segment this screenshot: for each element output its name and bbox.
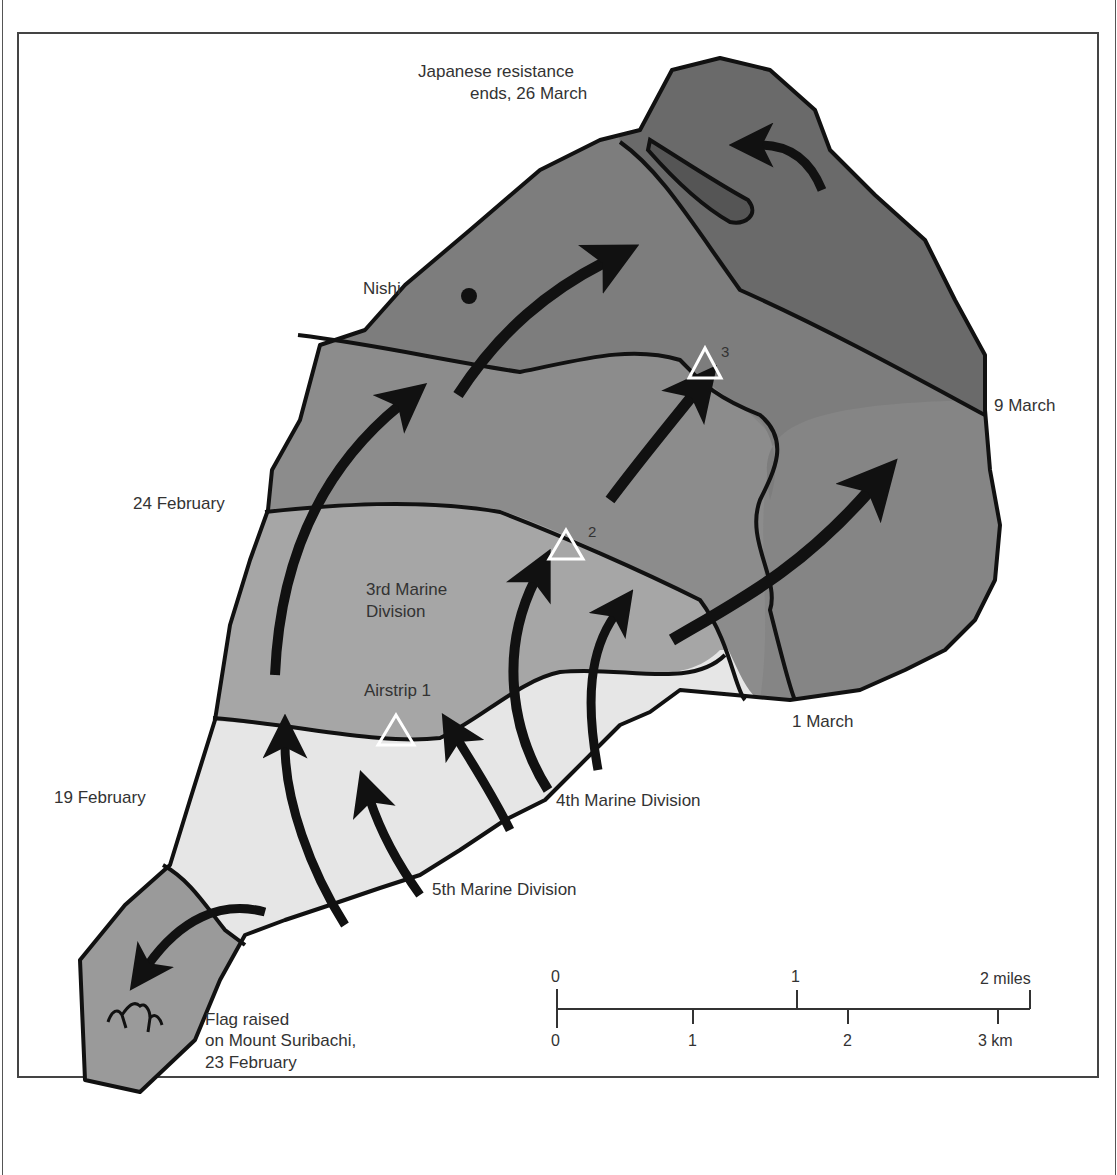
label-flag-3: 23 February	[205, 1053, 297, 1073]
label-24-february: 24 February	[133, 494, 225, 514]
scale-km-0: 0	[551, 1031, 560, 1051]
label-flag-1: Flag raised	[205, 1010, 289, 1030]
label-flag-2: on Mount Suribachi,	[205, 1031, 356, 1051]
label-19-february: 19 February	[54, 788, 146, 808]
label-resistance-end-1: Japanese resistance	[418, 62, 574, 82]
scale-miles-0: 0	[551, 967, 560, 987]
label-1-march: 1 March	[792, 712, 853, 732]
label-nishi: Nishi	[363, 279, 401, 299]
scale-km-3: 3 km	[978, 1031, 1013, 1051]
label-3rd-division-1: 3rd Marine	[366, 580, 447, 600]
scale-km-1: 1	[688, 1031, 697, 1051]
scale-miles-1: 1	[791, 967, 800, 987]
iwo-jima-map	[0, 0, 1117, 1175]
label-airstrip-2: 2	[588, 522, 596, 542]
label-airstrip-1: Airstrip 1	[364, 681, 431, 701]
label-3rd-division-2: Division	[366, 602, 426, 622]
label-airstrip-3: 3	[721, 342, 729, 362]
nishi-dot-icon	[461, 288, 477, 304]
scale-km-2: 2	[843, 1031, 852, 1051]
scale-bar	[557, 989, 1030, 1028]
phase-zones	[0, 0, 1117, 1175]
label-5th-division: 5th Marine Division	[432, 880, 577, 900]
label-9-march: 9 March	[994, 396, 1055, 416]
label-resistance-end-2: ends, 26 March	[470, 84, 587, 104]
label-4th-division: 4th Marine Division	[556, 791, 701, 811]
scale-miles-2: 2 miles	[980, 969, 1031, 989]
